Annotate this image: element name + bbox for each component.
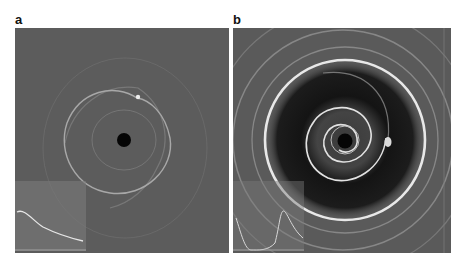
bright-source-a [136,95,140,99]
panel-a-label: a [15,13,22,26]
panel-a-image [15,28,229,253]
panel-b-image [233,28,451,253]
panel-b-label: b [233,13,241,26]
